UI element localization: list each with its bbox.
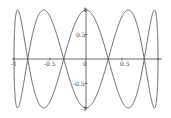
axes: [12, 8, 162, 110]
x-tick-label: 0.5: [120, 60, 130, 67]
y-tick-label: -0.5: [73, 80, 85, 87]
lissajous-chart: -1 -0.5 0 0.5 1 0.5 -0.5 -1: [0, 0, 171, 118]
x-tick-label: 0: [83, 60, 87, 67]
x-tick-label: -1: [11, 60, 17, 67]
y-tick-label: 1: [83, 6, 87, 13]
y-tick-label: -1: [81, 105, 87, 112]
x-tick-label: -0.5: [44, 60, 56, 67]
y-tick-label: 0.5: [76, 31, 86, 38]
